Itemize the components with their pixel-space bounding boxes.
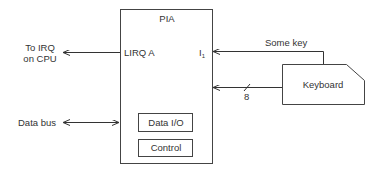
- pin-i1: I1: [199, 47, 205, 62]
- control-label: Control: [139, 142, 193, 153]
- some-key-line: [213, 52, 324, 65]
- data-io-label: Data I/O: [139, 117, 193, 128]
- pia-box: [121, 10, 213, 164]
- pin-lirq-a: LIRQ A: [124, 47, 155, 58]
- cpu-irq-label: To IRQ on CPU: [20, 42, 60, 64]
- bus-width-label: 8: [244, 91, 249, 102]
- some-key-label: Some key: [265, 37, 307, 48]
- keyboard-label: Keyboard: [290, 79, 356, 90]
- data-bus-label: Data bus: [18, 117, 56, 128]
- pia-title: PIA: [155, 13, 179, 24]
